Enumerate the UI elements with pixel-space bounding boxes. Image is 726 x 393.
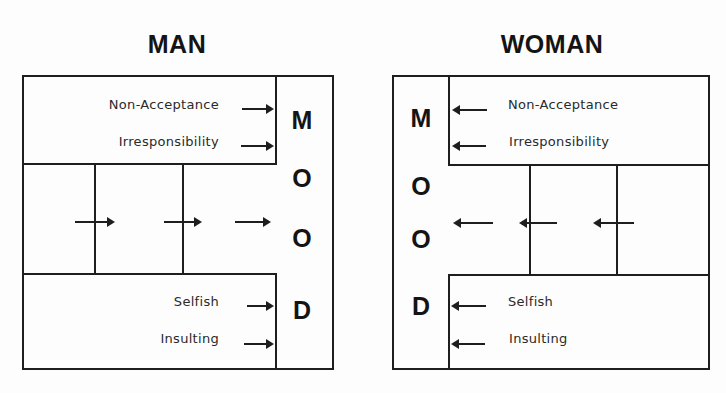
arrow-right-icon: [235, 221, 269, 223]
man-frame-bottom: [22, 368, 334, 370]
man-mood-divider-bottom: [275, 274, 277, 370]
woman-mood-letter-d: D: [412, 292, 430, 321]
arrow-left-icon: [595, 222, 634, 224]
man-label-selfish: Selfish: [174, 294, 219, 309]
arrow-right-icon: [244, 343, 272, 345]
man-mood-letter-o1: O: [292, 164, 311, 193]
man-label-irresponsibility: Irresponsibility: [119, 134, 219, 149]
man-mood-divider-top: [275, 75, 277, 165]
man-label-insulting: Insulting: [160, 331, 219, 346]
woman-mood-divider-bottom: [448, 274, 450, 370]
woman-top-box-divider: [448, 164, 710, 166]
arrow-left-icon: [454, 145, 486, 147]
woman-title: WOMAN: [501, 30, 603, 59]
woman-label-irresponsibility: Irresponsibility: [509, 134, 609, 149]
arrow-left-icon: [453, 305, 486, 307]
arrow-right-icon: [164, 221, 200, 223]
man-middle-divider-1: [94, 163, 96, 274]
arrow-right-icon: [241, 145, 272, 147]
man-title: MAN: [148, 30, 206, 59]
arrow-left-icon: [453, 343, 485, 345]
man-frame-left: [22, 75, 24, 370]
woman-frame-top: [392, 75, 710, 77]
woman-middle-divider-1: [529, 164, 531, 275]
man-middle-divider-2: [182, 163, 184, 274]
woman-label-insulting: Insulting: [509, 331, 568, 346]
arrow-left-icon: [455, 222, 493, 224]
woman-mood-letter-o2: O: [411, 225, 430, 254]
man-top-box-divider: [22, 163, 277, 165]
man-bottom-box-divider: [22, 273, 277, 275]
man-label-non-acceptance: Non-Acceptance: [109, 97, 219, 112]
woman-mood-letter-m: M: [411, 104, 432, 133]
man-mood-letter-o2: O: [292, 224, 311, 253]
woman-frame-right: [708, 75, 710, 370]
arrow-right-icon: [242, 108, 272, 110]
arrow-left-icon: [454, 109, 487, 111]
woman-label-non-acceptance: Non-Acceptance: [508, 97, 618, 112]
woman-frame-left: [392, 75, 394, 370]
man-frame-right: [332, 75, 334, 370]
arrow-left-icon: [521, 222, 557, 224]
man-mood-letter-d: D: [293, 296, 311, 325]
woman-middle-divider-2: [616, 164, 618, 275]
woman-frame-bottom: [392, 368, 710, 370]
arrow-right-icon: [247, 305, 272, 307]
arrow-right-icon: [75, 221, 113, 223]
man-mood-letter-m: M: [292, 106, 313, 135]
woman-mood-divider-top: [448, 75, 450, 165]
man-frame-top: [22, 75, 334, 77]
woman-bottom-box-divider: [448, 274, 710, 276]
woman-mood-letter-o1: O: [411, 172, 430, 201]
woman-label-selfish: Selfish: [508, 294, 553, 309]
